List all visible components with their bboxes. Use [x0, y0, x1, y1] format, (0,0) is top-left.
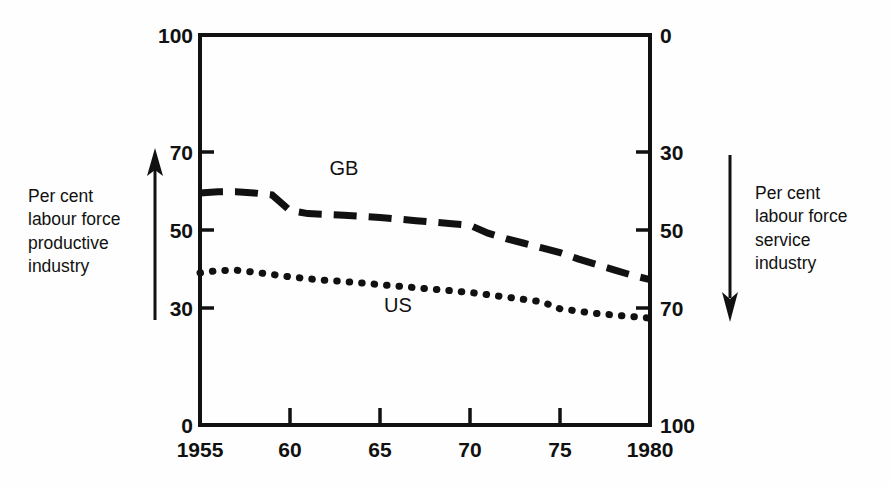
x-tick-label-1970: 70	[458, 438, 481, 461]
left-axis-ticks	[200, 152, 214, 308]
y-right-tick-label-100: 100	[660, 414, 695, 437]
x-tick-label-1965: 65	[368, 438, 392, 461]
y-tick-label-70: 70	[170, 141, 193, 164]
series-line-gb	[200, 192, 650, 280]
x-tick-label-1975: 75	[548, 438, 572, 461]
y-tick-label-50: 50	[170, 219, 193, 242]
y-tick-label-100: 100	[158, 24, 193, 47]
x-tick-label-1960: 60	[278, 438, 301, 461]
chart-page: 100 70 50 30 0 0 30 50 70 100 1955 60 65…	[0, 0, 890, 487]
right-axis-ticks	[636, 152, 650, 308]
x-tick-label-1980: 1980	[627, 438, 674, 461]
y-right-tick-label-50: 50	[660, 219, 683, 242]
right-axis-arrow-down-icon	[722, 155, 738, 322]
series-line-us	[200, 270, 650, 318]
y-right-tick-label-0: 0	[660, 24, 672, 47]
y-right-tick-label-30: 30	[660, 141, 683, 164]
y-tick-label-0: 0	[181, 414, 193, 437]
series-label-gb: GB	[330, 157, 359, 179]
x-tick-label-1955: 1955	[177, 438, 224, 461]
left-axis-caption: Per cent labour force productive industr…	[28, 185, 153, 279]
series-label-us: US	[384, 294, 412, 316]
x-axis-ticks	[290, 408, 560, 425]
y-right-tick-label-70: 70	[660, 297, 683, 320]
y-tick-label-30: 30	[170, 297, 193, 320]
right-axis-caption: Per cent labour force service industry	[755, 182, 880, 276]
plot-frame	[200, 35, 650, 425]
